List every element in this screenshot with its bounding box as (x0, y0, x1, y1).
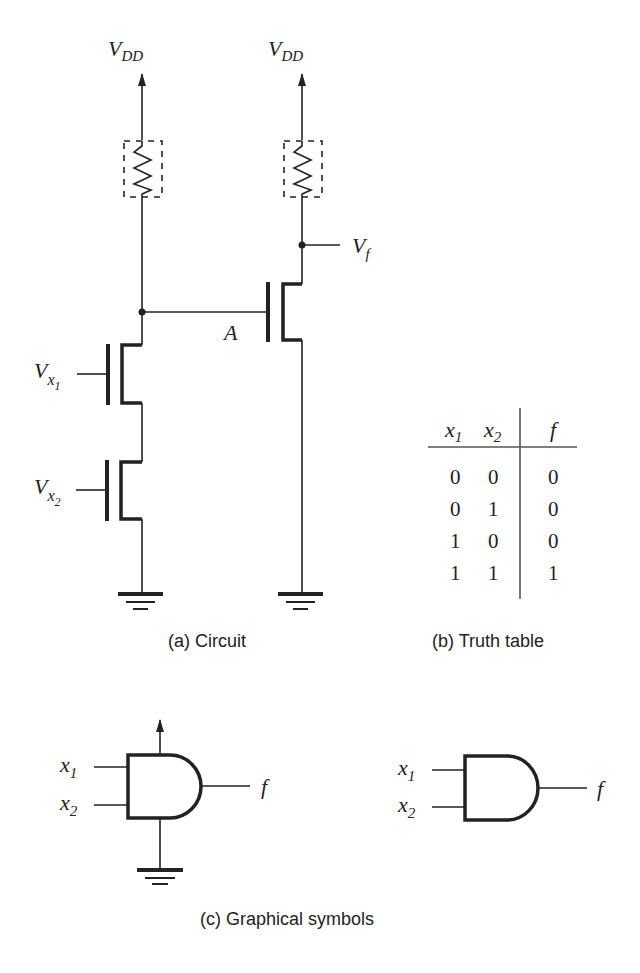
vdd-left: VDD (108, 36, 146, 140)
truth-table: x1 x2 f 0 0 0 0 1 0 1 0 0 1 1 1 (b) Trut… (428, 408, 577, 651)
svg-text:0: 0 (548, 497, 559, 521)
and-gate-icon (465, 756, 538, 820)
svg-text:0: 0 (488, 529, 499, 553)
svg-text:0: 0 (488, 465, 499, 489)
pullup-resistor-left (124, 141, 162, 198)
vdd-right-label: VDD (268, 36, 303, 64)
vdd-right: VDD (268, 36, 306, 140)
header-x1: x1 (444, 417, 462, 445)
svg-text:0: 0 (548, 465, 559, 489)
and-gate-with-supply: x1 x2 f (59, 719, 270, 884)
table-row: 0 0 0 (450, 465, 559, 489)
symbol1-output-f: f (261, 774, 270, 799)
vx1-label: Vx1 (34, 358, 61, 393)
ground-icon (278, 594, 323, 609)
vx2-label: Vx2 (34, 474, 61, 509)
nmos-transistor-x2: Vx2 (34, 460, 142, 521)
caption-truth-table: (b) Truth table (432, 631, 544, 651)
svg-text:1: 1 (450, 561, 461, 585)
caption-graphical-symbols: (c) Graphical symbols (200, 909, 374, 929)
header-x2: x2 (483, 417, 502, 445)
nmos-transistor-x1: Vx1 (34, 344, 142, 405)
svg-text:0: 0 (450, 497, 461, 521)
table-row: 1 0 0 (450, 529, 559, 553)
symbol2-input-x2: x2 (397, 792, 416, 821)
table-row: 1 1 1 (450, 561, 559, 585)
symbol1-input-x1: x1 (59, 752, 77, 781)
table-row: 0 1 0 (450, 497, 559, 521)
node-a-label: A (222, 320, 238, 345)
nmos-transistor-right (268, 282, 302, 342)
svg-text:1: 1 (488, 561, 499, 585)
symbol1-input-x2: x2 (59, 790, 78, 819)
ground-icon (137, 870, 183, 884)
svg-text:1: 1 (488, 497, 499, 521)
ground-icon (118, 594, 163, 609)
symbol2-output-f: f (597, 776, 606, 801)
vf-label: Vf (352, 233, 371, 262)
symbol2-input-x1: x1 (397, 755, 415, 784)
svg-text:1: 1 (548, 561, 559, 585)
caption-circuit: (a) Circuit (168, 631, 246, 651)
circuit: VDD VDD Vf A (34, 36, 371, 651)
and-gate-figure: VDD VDD Vf A (0, 0, 640, 973)
pullup-resistor-right (284, 141, 322, 198)
svg-text:0: 0 (548, 529, 559, 553)
vdd-left-label: VDD (108, 36, 143, 64)
svg-text:1: 1 (450, 529, 461, 553)
and-gate-icon (128, 755, 201, 818)
and-gate-symbol: x1 x2 f (397, 755, 606, 821)
header-f: f (550, 417, 559, 442)
svg-text:0: 0 (450, 465, 461, 489)
